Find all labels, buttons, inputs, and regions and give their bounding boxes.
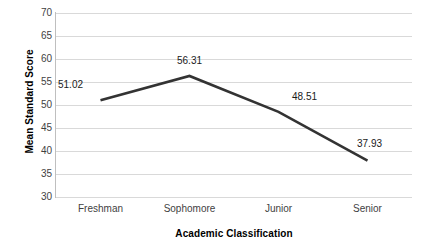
x-axis-title: Academic Classification (56, 228, 412, 239)
y-axis-tick-label: 45 (30, 123, 52, 133)
y-axis-tick-label: 30 (30, 192, 52, 202)
data-point-label: 48.51 (285, 92, 325, 102)
plot-area: 51.0256.3148.5137.93 (56, 13, 412, 197)
series-line (56, 13, 412, 197)
gridline (56, 197, 412, 198)
data-point-label: 51.02 (51, 80, 91, 90)
x-axis-tick-label: Junior (239, 203, 319, 215)
y-axis-tick-label: 65 (30, 31, 52, 41)
line-chart: Mean Standard Score Academic Classificat… (0, 0, 424, 251)
y-axis-tick-label: 50 (30, 100, 52, 110)
y-axis-tick-label: 70 (30, 8, 52, 18)
y-axis-tick-label: 60 (30, 54, 52, 64)
y-axis-tick-label: 35 (30, 169, 52, 179)
x-axis-tick-label: Senior (328, 203, 408, 215)
x-axis-tick-label: Sophomore (150, 203, 230, 215)
x-axis-tick-label: Freshman (61, 203, 141, 215)
y-axis-tick-label: 55 (30, 77, 52, 87)
y-axis-tick-label: 40 (30, 146, 52, 156)
data-point-label: 37.93 (350, 139, 390, 149)
data-point-label: 56.31 (170, 56, 210, 66)
